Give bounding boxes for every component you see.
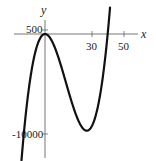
y-axis-label: y (40, 3, 47, 17)
x-tick-label-30: 30 (86, 40, 98, 52)
x-tick-label-50: 50 (118, 40, 130, 52)
chart: y x 500 -10000 30 50 (0, 0, 157, 161)
y-tick-label-neg10000: -10000 (12, 128, 44, 140)
y-tick-label-500: 500 (26, 23, 43, 35)
x-axis-label: x (140, 27, 147, 41)
